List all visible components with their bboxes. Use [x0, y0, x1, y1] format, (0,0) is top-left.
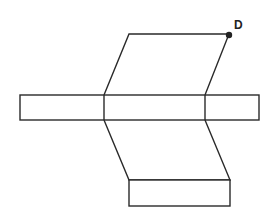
- lateral-strip: [20, 95, 259, 120]
- point-d-marker: [226, 32, 232, 38]
- top-face: [104, 34, 229, 95]
- prism-net-diagram: D: [0, 0, 271, 211]
- bottom-rectangle: [129, 180, 230, 206]
- lower-face: [104, 120, 230, 180]
- label-d: D: [234, 18, 243, 32]
